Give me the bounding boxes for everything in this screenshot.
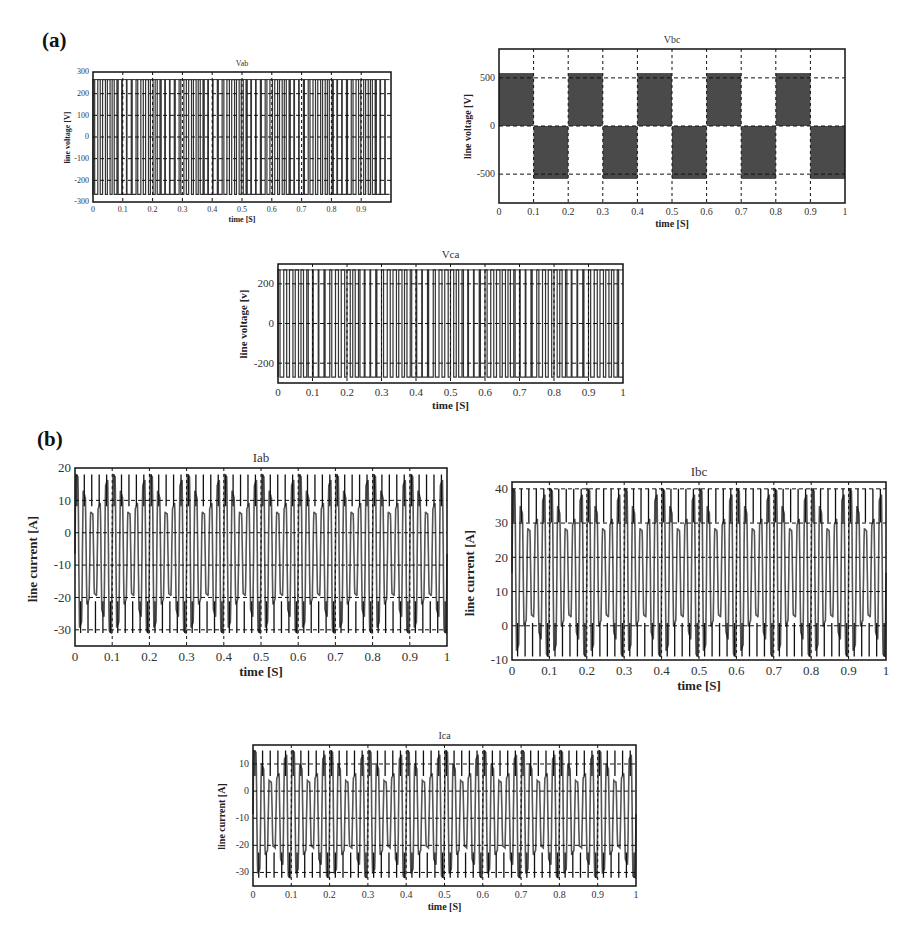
x-tick-label: 0.8 bbox=[358, 649, 388, 665]
y-tick-label: -200 bbox=[74, 176, 89, 185]
y-axis-label: line current [A] bbox=[216, 746, 227, 887]
x-tick-label: 0.2 bbox=[553, 206, 583, 217]
x-tick-label: 0.6 bbox=[257, 205, 287, 214]
x-tick-label: 0.9 bbox=[583, 889, 613, 900]
y-tick-label: 0 bbox=[502, 618, 509, 634]
x-tick-label: 0.9 bbox=[395, 649, 425, 665]
x-tick-label: 0.2 bbox=[138, 205, 168, 214]
x-tick-label: 0.2 bbox=[572, 663, 602, 679]
x-tick-label: 0.7 bbox=[759, 663, 789, 679]
y-tick-label: 10 bbox=[239, 758, 249, 769]
x-tick-label: 0.1 bbox=[276, 889, 306, 900]
y-tick-label: 0 bbox=[244, 785, 249, 796]
x-tick-label: 0.9 bbox=[574, 386, 604, 398]
chart-title: Vab bbox=[93, 59, 391, 68]
y-tick-label: -30 bbox=[54, 622, 71, 638]
y-tick-label: -30 bbox=[236, 866, 249, 877]
x-tick-label: 0.1 bbox=[108, 205, 138, 214]
x-tick-label: 0.5 bbox=[657, 206, 687, 217]
x-tick-label: 0.9 bbox=[346, 205, 376, 214]
x-tick-label: 0.2 bbox=[134, 649, 164, 665]
y-tick-label: -10 bbox=[54, 557, 71, 573]
y-axis-label: line voltage [V] bbox=[63, 73, 72, 203]
x-tick-label: 0.9 bbox=[834, 663, 864, 679]
y-tick-label: -20 bbox=[236, 839, 249, 850]
x-axis-label: time [S] bbox=[93, 215, 391, 224]
chart-title: Ibc bbox=[512, 464, 886, 480]
plot-area bbox=[75, 468, 447, 646]
x-tick-label: 0.7 bbox=[505, 386, 535, 398]
x-tick-label: 0.4 bbox=[391, 889, 421, 900]
x-tick-label: 0.1 bbox=[519, 206, 549, 217]
y-axis-label: line current [A] bbox=[25, 470, 41, 648]
x-tick-label: 0.1 bbox=[534, 663, 564, 679]
chart-title: Ica bbox=[253, 730, 636, 741]
plot-area bbox=[93, 72, 391, 202]
x-tick-label: 0.4 bbox=[647, 663, 677, 679]
x-tick-label: 0 bbox=[238, 889, 268, 900]
plot-area bbox=[278, 264, 623, 383]
y-axis-label: line voltage [V] bbox=[462, 50, 473, 204]
x-tick-label: 0.7 bbox=[320, 649, 350, 665]
x-tick-label: 0.3 bbox=[588, 206, 618, 217]
y-tick-label: -100 bbox=[74, 154, 89, 163]
x-axis-label: time [S] bbox=[499, 218, 845, 229]
y-axis-label: line voltage [v] bbox=[237, 265, 249, 384]
x-tick-label: 1 bbox=[830, 206, 860, 217]
y-tick-label: -10 bbox=[236, 812, 249, 823]
y-tick-label: -300 bbox=[74, 197, 89, 206]
x-tick-label: 0.3 bbox=[172, 649, 202, 665]
y-tick-label: 20 bbox=[58, 460, 71, 476]
y-tick-label: 0 bbox=[85, 132, 89, 141]
y-tick-label: 20 bbox=[495, 550, 508, 566]
chart-ica: Ica00.10.20.30.40.50.60.70.80.91100-10-2… bbox=[253, 745, 636, 886]
chart-vca: Vca00.10.20.30.40.50.60.70.80.912000-200… bbox=[278, 264, 623, 383]
y-tick-label: 300 bbox=[77, 67, 89, 76]
x-axis-label: time [S] bbox=[253, 901, 636, 912]
chart-title: Vbc bbox=[499, 34, 845, 45]
x-tick-label: 1 bbox=[621, 889, 651, 900]
x-tick-label: 0.6 bbox=[283, 649, 313, 665]
x-tick-label: 0.2 bbox=[332, 386, 362, 398]
chart-title: Vca bbox=[278, 248, 623, 260]
x-tick-label: 0.5 bbox=[227, 205, 257, 214]
y-tick-label: 200 bbox=[258, 277, 275, 289]
x-tick-label: 0.3 bbox=[367, 386, 397, 398]
x-tick-label: 0 bbox=[484, 206, 514, 217]
plot-area bbox=[253, 745, 636, 886]
x-tick-label: 0.5 bbox=[430, 889, 460, 900]
y-tick-label: 100 bbox=[77, 111, 89, 120]
chart-title: Iab bbox=[75, 450, 447, 466]
x-tick-label: 0.2 bbox=[315, 889, 345, 900]
y-tick-label: 0 bbox=[269, 317, 275, 329]
x-tick-label: 0 bbox=[60, 649, 90, 665]
y-tick-label: 0 bbox=[490, 120, 495, 131]
x-tick-label: 0.4 bbox=[622, 206, 652, 217]
x-tick-label: 0.7 bbox=[726, 206, 756, 217]
x-tick-label: 0.7 bbox=[506, 889, 536, 900]
y-tick-label: 500 bbox=[480, 72, 495, 83]
x-tick-label: 1 bbox=[432, 649, 462, 665]
x-tick-label: 0.5 bbox=[436, 386, 466, 398]
x-tick-label: 0.8 bbox=[316, 205, 346, 214]
panel-label-b: (b) bbox=[37, 427, 63, 452]
x-tick-label: 0.5 bbox=[246, 649, 276, 665]
x-tick-label: 0.8 bbox=[761, 206, 791, 217]
x-tick-label: 0.9 bbox=[795, 206, 825, 217]
x-axis-label: time [S] bbox=[75, 664, 447, 680]
x-tick-label: 0.8 bbox=[539, 386, 569, 398]
x-tick-label: 1 bbox=[871, 663, 901, 679]
y-tick-label: -200 bbox=[254, 357, 274, 369]
y-tick-label: 40 bbox=[495, 481, 508, 497]
x-tick-label: 0.8 bbox=[544, 889, 574, 900]
panel-label-a: (a) bbox=[42, 28, 67, 53]
y-tick-label: 10 bbox=[495, 584, 508, 600]
y-tick-label: 30 bbox=[495, 515, 508, 531]
x-tick-label: 0.1 bbox=[298, 386, 328, 398]
y-tick-label: 0 bbox=[65, 525, 72, 541]
x-tick-label: 0.4 bbox=[209, 649, 239, 665]
x-tick-label: 0 bbox=[263, 386, 293, 398]
x-tick-label: 0.3 bbox=[353, 889, 383, 900]
y-tick-label: -500 bbox=[477, 168, 495, 179]
y-tick-label: 10 bbox=[58, 493, 71, 509]
